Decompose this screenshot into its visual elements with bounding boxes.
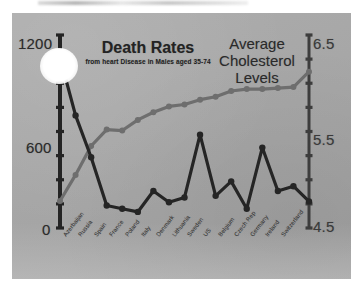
- data-point: [213, 94, 219, 100]
- data-point: [150, 109, 156, 115]
- axis-tick: [56, 82, 64, 85]
- left-axis-tick-1200: 1200: [18, 35, 52, 52]
- data-point: [104, 127, 110, 133]
- data-point: [228, 178, 234, 184]
- axis-tick: [56, 154, 64, 157]
- chart-figure: 1200 600 0 6.5 5.5 4.5 Death Rates from …: [12, 13, 351, 279]
- cholesterol-title-line-3: Levels: [197, 69, 317, 86]
- data-point: [135, 117, 141, 123]
- data-point: [72, 112, 78, 118]
- right-axis-tick-5-5: 5.5: [313, 131, 334, 148]
- data-point: [290, 183, 296, 189]
- data-point: [166, 199, 172, 205]
- data-point: [197, 132, 203, 138]
- data-point: [244, 206, 250, 212]
- data-point: [212, 193, 218, 199]
- left-axis-tick-0: 0: [42, 221, 51, 238]
- axis-tick: [306, 178, 313, 181]
- axis-tick: [56, 178, 64, 181]
- data-point: [244, 86, 250, 92]
- data-point: [135, 209, 141, 215]
- data-point: [259, 144, 265, 150]
- data-point: [119, 206, 125, 212]
- data-point: [119, 128, 125, 134]
- data-point: [88, 154, 94, 160]
- left-axis-tick-600: 600: [26, 139, 52, 156]
- data-point: [228, 88, 234, 94]
- right-axis-tick-4-5: 4.5: [313, 218, 334, 235]
- data-point: [182, 101, 188, 107]
- axis-tick: [56, 130, 64, 133]
- axis-tick: [56, 106, 64, 109]
- data-point: [57, 54, 63, 60]
- data-point: [166, 103, 172, 109]
- cholesterol-title-line-1: Average: [197, 35, 317, 52]
- axis-tick: [306, 130, 313, 133]
- data-point: [275, 188, 281, 194]
- axis-tick: [306, 106, 313, 109]
- axis-tick: [306, 154, 313, 157]
- data-point: [57, 198, 63, 204]
- data-point: [259, 86, 265, 92]
- data-point: [181, 194, 187, 200]
- data-point: [197, 97, 203, 103]
- data-point: [103, 202, 109, 208]
- axis-tick: [56, 33, 64, 36]
- data-point: [73, 172, 79, 178]
- scan-artifact: [38, 1, 248, 5]
- death-rates-title: Death Rates: [88, 39, 208, 57]
- data-point: [306, 198, 312, 204]
- cholesterol-title: Average Cholesterol Levels: [197, 35, 317, 86]
- axis-tick: [56, 226, 64, 229]
- axis-tick: [306, 226, 313, 229]
- data-point: [150, 188, 156, 194]
- cholesterol-title-line-2: Cholesterol: [197, 52, 317, 69]
